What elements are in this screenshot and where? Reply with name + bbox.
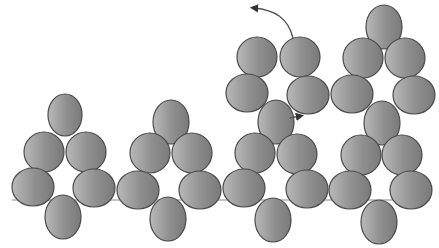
bead xyxy=(390,171,432,209)
bead xyxy=(361,200,397,244)
bead xyxy=(48,94,82,136)
bead xyxy=(66,132,106,172)
bead xyxy=(385,38,425,78)
bead xyxy=(130,133,170,173)
bead xyxy=(150,197,186,241)
bead xyxy=(226,74,268,112)
unit-4 xyxy=(329,5,435,244)
bead xyxy=(179,171,221,209)
arrow-curved-up-left-icon xyxy=(254,8,293,38)
bead xyxy=(393,76,435,114)
bead xyxy=(329,171,371,209)
bead xyxy=(341,135,381,175)
bead xyxy=(117,171,159,209)
bead xyxy=(223,169,265,207)
bead xyxy=(287,76,329,114)
bead xyxy=(172,133,212,173)
bead xyxy=(235,133,275,173)
unit-2 xyxy=(117,100,221,241)
bead xyxy=(331,75,373,113)
bead xyxy=(343,38,383,78)
unit-1 xyxy=(12,94,115,239)
beads-layer xyxy=(12,5,435,244)
bead xyxy=(237,37,277,77)
bead xyxy=(73,169,115,207)
bead-diagram xyxy=(0,0,439,248)
unit-3 xyxy=(223,37,329,242)
bead xyxy=(280,37,320,77)
bead xyxy=(277,134,317,174)
bead xyxy=(12,168,54,206)
bead xyxy=(286,170,328,208)
bead xyxy=(255,198,291,242)
bead xyxy=(382,135,422,175)
bead xyxy=(24,132,64,172)
bead xyxy=(45,195,81,239)
